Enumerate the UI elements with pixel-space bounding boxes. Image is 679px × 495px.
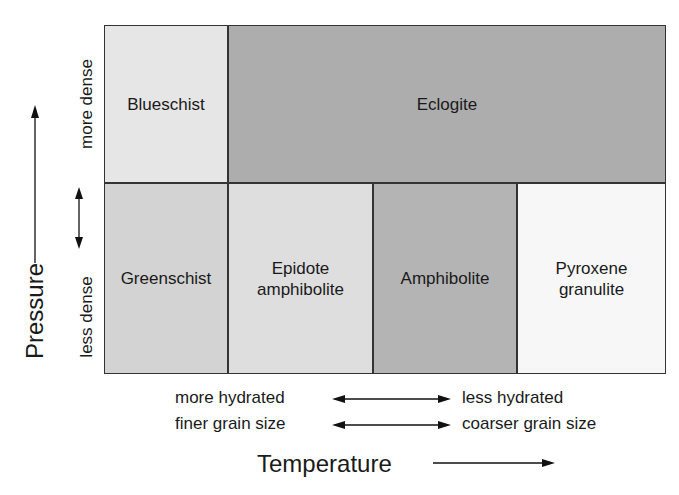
less-hydrated-label: less hydrated [462, 388, 563, 408]
grid-divider-vertical-2 [372, 183, 374, 374]
temperature-label: Temperature [257, 450, 392, 478]
grid-divider-vertical-3 [516, 183, 518, 374]
grid-divider-vertical-1 [227, 25, 229, 374]
more-dense-label: more dense [77, 54, 97, 154]
facies-grid-border [104, 25, 666, 374]
less-dense-label: less dense [77, 272, 97, 362]
grid-divider-horizontal [104, 182, 666, 184]
coarser-grain-size-label: coarser grain size [462, 414, 596, 434]
temperature-arrow-icon [0, 0, 1, 1]
finer-grain-size-label: finer grain size [175, 414, 286, 434]
more-hydrated-label: more hydrated [175, 388, 285, 408]
pressure-label: Pressure [21, 269, 49, 359]
